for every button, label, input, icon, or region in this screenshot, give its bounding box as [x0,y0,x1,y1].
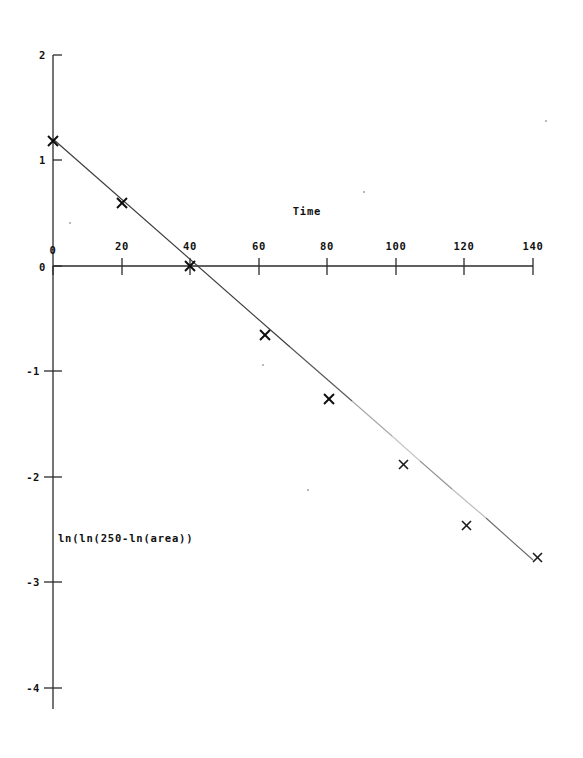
x-tick-label-100: 100 [386,240,407,252]
y-tick-label-0: 0 [39,261,46,273]
x-tick-label-120: 120 [454,240,475,252]
x-tick-label-140: 140 [523,240,544,252]
y-axis-title: ln(ln(250-ln(area)) [58,532,193,544]
x-tick-label-80: 80 [320,240,334,252]
x-tick-label-60: 60 [252,240,266,252]
chart-figure: 2 1 0 -1 -2 -3 -4 0 20 40 60 80 100 120 … [0,0,583,758]
y-tick-label-neg1: -1 [26,365,40,377]
x-tick-label-40: 40 [183,240,197,252]
y-tick-label-neg2: -2 [26,471,40,483]
chart-plot-area: 2 1 0 -1 -2 -3 -4 0 20 40 60 80 100 120 … [0,0,583,758]
y-tick-label-1: 1 [39,154,46,166]
x-tick-label-20: 20 [115,240,129,252]
chart-background [0,0,583,758]
y-tick-label-neg4: -4 [26,682,40,694]
y-tick-label-neg3: -3 [26,576,40,588]
y-tick-label-2: 2 [39,49,46,61]
x-axis-title: Time [293,205,322,217]
x-tick-label-0: 0 [50,244,57,256]
